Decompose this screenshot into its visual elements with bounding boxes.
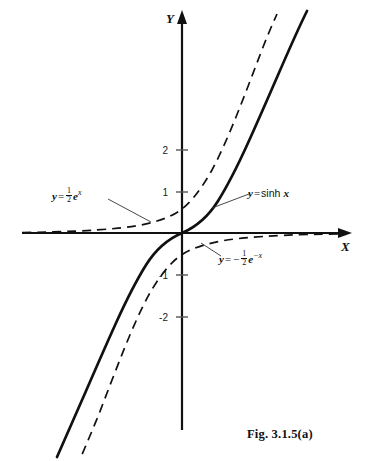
curve-label-neg-half-exp: y=−12e−x (219, 250, 262, 268)
plot-canvas: 2 1 -1 -2 Y X (0, 0, 365, 461)
label-neg-half-exp-minus: − (232, 253, 240, 265)
fraction-denominator-neg: 2 (241, 259, 247, 267)
curve-label-sinh: y=sinhx (248, 188, 289, 199)
fraction-denominator: 2 (66, 196, 72, 204)
y-axis (177, 10, 187, 430)
y-axis-label: Y (166, 11, 175, 26)
label-neg-half-exp-exponent: −x (253, 251, 262, 260)
y-tick-label-2: 2 (162, 145, 168, 156)
label-neg-half-exp-equals: = (224, 253, 232, 265)
leader-line-half-exp (108, 199, 151, 222)
label-sinh-argument: x (283, 187, 289, 199)
label-half-exp-exponent: x (78, 188, 82, 197)
fraction-one-half: 12 (66, 187, 72, 205)
label-sinh-function: sinh (261, 187, 280, 199)
label-sinh-equals: = (253, 187, 261, 199)
figure-caption: Fig. 3.1.5(a) (247, 427, 313, 442)
figure-container: 2 1 -1 -2 Y X y=12ex y=sinhx y=−12e−x Fi… (0, 0, 365, 461)
curve-neg-half-exp (81, 234, 338, 457)
y-tick-label-1: 1 (162, 187, 168, 198)
label-half-exp-equals: = (57, 190, 65, 202)
leader-line-neg-half-exp (201, 243, 221, 256)
curve-label-half-exp: y=12ex (52, 187, 82, 205)
y-tick-label-neg2: -2 (159, 312, 168, 323)
fraction-one-half-neg: 12 (241, 250, 247, 268)
x-axis-label: X (340, 239, 350, 254)
